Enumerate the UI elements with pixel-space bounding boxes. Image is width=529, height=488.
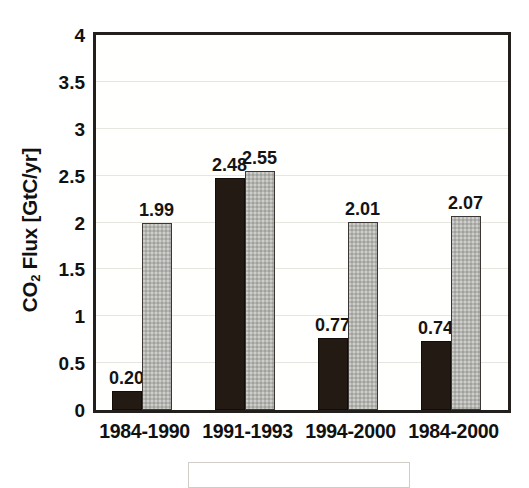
y-tick-label: 3 [43,120,85,139]
y-tick-label: 2 [43,214,85,233]
plot-area: 0.201.992.482.550.772.010.742.07 [93,32,511,413]
x-tick-label: 1991-1993 [196,420,299,443]
y-axis-title-pre: CO [18,282,41,312]
bar-black-series-1984-2000 [421,341,451,410]
y-tick-label: 0 [43,401,85,420]
bar-black-series-1984-1990 [112,391,142,410]
y-axis-title-post: Flux [GtC/yr] [18,148,41,275]
bar-gray-series-1991-1993 [245,171,275,410]
y-axis-title: CO2 Flux [GtC/yr] [18,90,42,370]
x-tick-label: 1984-1990 [93,420,196,443]
y-axis-tick-labels: 00.511.522.533.54 [40,0,85,470]
bar-gray-series-1984-2000 [451,216,481,410]
x-tick-label: 1994-2000 [299,420,402,443]
legend-box-clipped [188,462,410,488]
y-tick-label: 3.5 [43,73,85,92]
bar-value-label: 2.55 [234,149,286,167]
y-tick-label: 1 [43,307,85,326]
y-tick-label: 1.5 [43,260,85,279]
bar-black-series-1994-2000 [318,338,348,410]
bar-value-label: 2.07 [440,194,492,212]
bar-black-series-1991-1993 [215,178,245,411]
bar-value-label: 2.01 [337,200,389,218]
bar-series-container: 0.201.992.482.550.772.010.742.07 [96,35,508,410]
y-tick-label: 0.5 [43,354,85,373]
bar-value-label: 1.99 [131,201,183,219]
bar-gray-series-1994-2000 [348,222,378,410]
x-axis-tick-labels: 1984-19901991-19931994-20001984-2000 [93,420,511,452]
x-tick-label: 1984-2000 [402,420,505,443]
y-tick-label: 2.5 [43,167,85,186]
bar-gray-series-1984-1990 [142,223,172,410]
y-tick-label: 4 [43,26,85,45]
